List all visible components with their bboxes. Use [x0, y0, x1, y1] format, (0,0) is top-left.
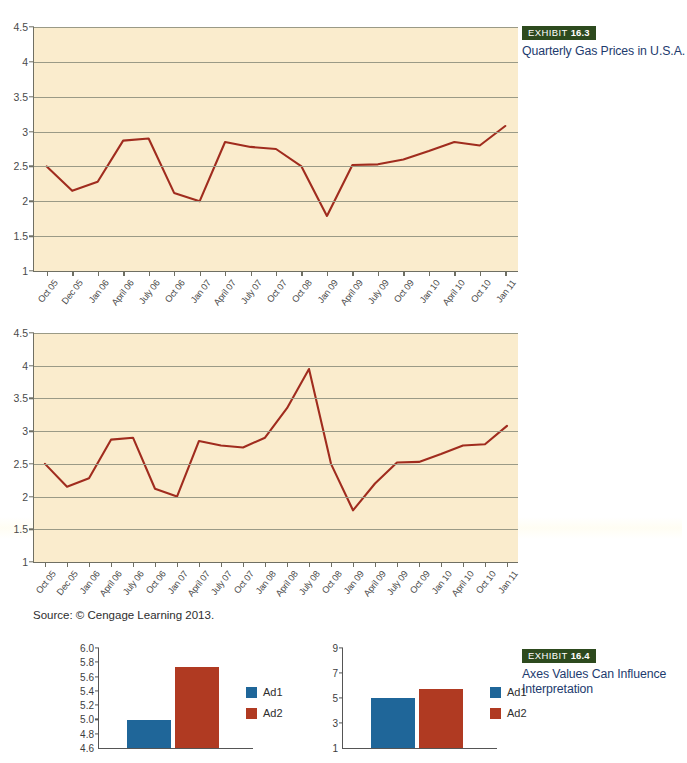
line-chart-gas-prices-full: 11.522.533.544.5Oct 05Dec 05Jan 06April … [33, 333, 518, 563]
x-axis-tick [265, 562, 266, 567]
y-axis-tick-label: 4 [22, 360, 28, 372]
x-axis-tick [98, 271, 99, 276]
y-axis-tick [339, 672, 343, 673]
x-axis-tick-label: Oct 06 [144, 569, 168, 596]
x-axis-tick [200, 271, 201, 276]
plot-area: 11.522.533.544.5Oct 05Dec 05Jan 06April … [33, 333, 518, 563]
x-axis-tick-label: Oct 08 [291, 278, 315, 305]
x-axis-tick [45, 562, 46, 567]
y-axis-tick [339, 722, 343, 723]
legend-label: Ad1 [507, 686, 527, 698]
x-axis-tick-label: Jan 07 [188, 278, 212, 305]
x-axis-tick [301, 271, 302, 276]
data-line [47, 126, 506, 216]
data-line [45, 369, 507, 510]
exhibit-badge-word: EXHIBIT [528, 650, 568, 661]
x-axis-tick [353, 562, 354, 567]
x-axis-tick-label: July 09 [366, 278, 391, 306]
legend-item: Ad1 [246, 686, 283, 698]
y-axis-tick-label: 2 [22, 491, 28, 503]
x-axis-tick [485, 562, 486, 567]
x-axis-tick [243, 562, 244, 567]
exhibit-title-16-4: Axes Values Can Influence Interpretation [522, 667, 687, 696]
x-axis-tick [378, 271, 379, 276]
y-axis-tick [29, 166, 34, 167]
y-axis-tick [29, 201, 34, 202]
y-axis-tick [29, 398, 34, 399]
y-axis-tick [95, 676, 99, 677]
y-axis-tick [29, 365, 34, 366]
x-axis-tick-label: April 07 [212, 278, 238, 307]
plot-area: 11.522.533.544.5Oct 05Dec 05Jan 06April … [33, 27, 518, 272]
y-axis-tick [29, 96, 34, 97]
x-axis-tick-label: April 08 [274, 569, 300, 598]
y-axis-tick-label: 5.4 [80, 685, 94, 696]
gridline [34, 27, 518, 28]
x-axis-tick [309, 562, 310, 567]
x-axis-tick [47, 271, 48, 276]
x-axis-tick-label: Jan 06 [86, 278, 110, 305]
line-series-path [34, 27, 518, 271]
bar-chart-full-axis: 13579 Ad1Ad2 [342, 648, 463, 749]
legend-label: Ad1 [263, 686, 283, 698]
bar-ad1 [127, 720, 171, 748]
y-axis-tick-label: 4.6 [80, 743, 94, 754]
x-axis-tick [276, 271, 277, 276]
y-axis-tick-label: 2.5 [13, 458, 28, 470]
x-axis-tick [72, 271, 73, 276]
x-axis-tick-label: April 06 [110, 278, 136, 307]
legend-swatch [246, 687, 257, 698]
y-axis-tick [29, 430, 34, 431]
legend: Ad1Ad2 [246, 686, 283, 728]
x-axis-tick-label: July 06 [121, 569, 146, 597]
x-axis-tick [111, 562, 112, 567]
x-axis-tick [419, 562, 420, 567]
x-axis-tick-label: Oct 05 [36, 278, 60, 305]
x-axis-tick-label: July 06 [137, 278, 162, 306]
legend-label: Ad2 [507, 707, 527, 719]
x-axis-tick-label: April 06 [98, 569, 124, 598]
y-axis-tick [29, 270, 34, 271]
legend-swatch [246, 708, 257, 719]
y-axis-tick-label: 1 [22, 556, 28, 568]
gridline [34, 366, 518, 367]
y-axis-tick-label: 5.6 [80, 671, 94, 682]
y-axis-tick [339, 697, 343, 698]
x-axis-tick-label: Oct 10 [469, 278, 493, 305]
y-axis-tick [29, 26, 34, 27]
gridline [34, 236, 518, 237]
gridline [34, 431, 518, 432]
x-axis-tick-label: July 07 [238, 278, 263, 306]
x-axis-tick-label: April 10 [450, 569, 476, 598]
x-axis-tick [174, 271, 175, 276]
x-axis-tick-label: Oct 09 [392, 278, 416, 305]
exhibit-badge-16-4: EXHIBIT 16.4 [522, 649, 596, 663]
bar-chart-zoomed-axis: 4.64.85.05.25.45.65.86.0 Ad1Ad2 [98, 648, 219, 749]
x-axis-tick-label: July 08 [297, 569, 322, 597]
x-axis-tick [403, 271, 404, 276]
x-axis-tick-label: Oct 06 [163, 278, 187, 305]
gridline [34, 97, 518, 98]
x-axis-tick-label: April 09 [339, 278, 365, 307]
x-axis-tick [331, 562, 332, 567]
x-axis-tick [327, 271, 328, 276]
y-axis-tick [29, 131, 34, 132]
x-axis-tick [507, 562, 508, 567]
y-axis-tick [339, 647, 343, 648]
x-axis-tick [397, 562, 398, 567]
y-axis-tick [29, 496, 34, 497]
gridline [34, 398, 518, 399]
x-axis-tick-label: Oct 07 [232, 569, 256, 596]
gridline [34, 201, 518, 202]
x-axis-tick [480, 271, 481, 276]
x-axis-tick-label: Jan 11 [496, 569, 520, 595]
y-axis-tick [29, 561, 34, 562]
x-axis-tick [155, 562, 156, 567]
y-axis-tick-label: 3 [22, 425, 28, 437]
y-axis-tick [29, 529, 34, 530]
x-axis-tick-label: July 09 [385, 569, 410, 597]
x-axis-tick-label: April 10 [441, 278, 467, 307]
x-axis-tick [199, 562, 200, 567]
y-axis-tick-label: 7 [332, 668, 338, 679]
x-axis-tick [429, 271, 430, 276]
